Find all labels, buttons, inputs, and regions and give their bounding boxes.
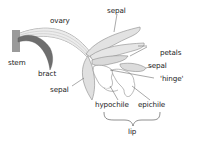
lip-brace [104, 112, 160, 126]
label-hypochile: hypochile [95, 101, 129, 108]
label-petals: petals [160, 49, 181, 56]
label-stem: stem [8, 59, 26, 66]
label-sepal-left: sepal [50, 86, 69, 93]
orchid-diagram [0, 0, 198, 144]
label-sepal-right: sepal [148, 62, 167, 69]
label-epichile: epichile [138, 101, 165, 108]
label-hinge: 'hinge' [160, 75, 183, 82]
label-sepal-top: sepal [107, 7, 126, 14]
label-ovary: ovary [50, 17, 70, 24]
label-bract: bract [38, 70, 56, 77]
label-lip: lip [128, 128, 136, 135]
ovary-fill [20, 28, 90, 57]
